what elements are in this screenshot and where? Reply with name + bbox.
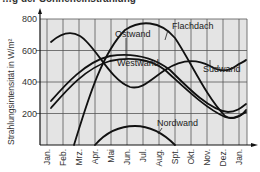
x-tick-labels: Jan. Feb. Mrz. Apr. Mai Jun. Jul. Aug. S… (42, 149, 244, 167)
xtick-jul: Jul. (138, 149, 148, 162)
label-westwand: Westwand (117, 58, 159, 68)
y-axis-arrow-icon (38, 8, 42, 14)
label-flachdach: Flachdach (172, 21, 214, 31)
x-axis-arrow-icon (251, 143, 258, 147)
xtick-okt: Okt. (186, 149, 196, 165)
xtick-nov: Nov. (202, 149, 212, 166)
xtick-jun: Jun. (122, 149, 132, 165)
label-nordwand: Nordwand (157, 118, 198, 128)
xtick-dez: Dez. (218, 149, 228, 166)
ytick-800: 800 (22, 14, 37, 24)
xtick-jan-2: Jan. (234, 149, 244, 165)
ytick-200: 200 (22, 109, 37, 119)
y-axis-label: Strahlungsintensität in W/m² (6, 39, 16, 145)
xtick-feb: Feb. (58, 149, 68, 166)
xtick-apr: Apr. (90, 149, 100, 164)
label-ostwand: Ostwand (115, 29, 151, 39)
xtick-mrz: Mrz. (74, 149, 84, 166)
xtick-mai: Mai (106, 149, 116, 163)
xtick-aug: Aug. (154, 149, 164, 167)
ytick-600: 600 (22, 46, 37, 56)
ytick-400: 400 (22, 77, 37, 87)
label-suedwand: Südwand (203, 64, 241, 74)
chart: 800 600 400 200 Strahlungsintensität in … (0, 0, 260, 172)
xtick-spt: Spt. (170, 149, 180, 164)
xtick-jan: Jan. (42, 149, 52, 165)
